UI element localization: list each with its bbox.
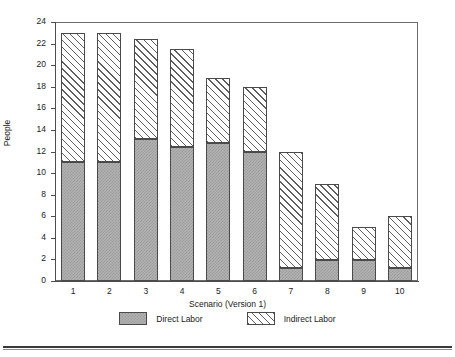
y-tick-label: 14 (37, 124, 46, 135)
y-axis-line (55, 22, 56, 282)
bar-segment-indirect-labor (61, 33, 85, 163)
bar-segment-direct-labor (388, 268, 412, 281)
y-tick-mark (51, 216, 55, 217)
bar-stack (388, 216, 412, 281)
bar-segment-direct-labor (134, 139, 158, 281)
y-tick-label: 4 (41, 232, 46, 243)
bar-segment-indirect-labor (352, 227, 376, 260)
y-tick-mark (51, 108, 55, 109)
y-tick-label: 0 (41, 275, 46, 286)
bar-segment-direct-labor (170, 147, 194, 281)
bar-stack (61, 33, 85, 281)
y-tick-mark (51, 65, 55, 66)
y-tick-label: 12 (37, 146, 46, 157)
y-tick-mark (51, 152, 55, 153)
bar-segment-direct-labor (61, 162, 85, 281)
x-tick-label: 3 (126, 286, 166, 297)
y-tick-mark (51, 44, 55, 45)
y-tick-label: 6 (41, 210, 46, 221)
footer-rule (3, 346, 452, 350)
legend-label: Indirect Labor (284, 314, 336, 324)
chart-legend: Direct LaborIndirect Labor (0, 312, 455, 325)
y-tick-mark (51, 195, 55, 196)
y-tick-label: 2 (41, 253, 46, 264)
y-tick-mark (51, 238, 55, 239)
x-tick-label: 9 (344, 286, 384, 297)
y-tick-label: 16 (37, 102, 46, 113)
x-tick-label: 5 (198, 286, 238, 297)
bar-segment-direct-labor (352, 260, 376, 281)
y-tick-label: 18 (37, 81, 46, 92)
y-tick-label: 24 (37, 16, 46, 27)
x-axis-line (55, 281, 419, 282)
bar-segment-direct-labor (206, 143, 230, 281)
bar-segment-direct-labor (243, 152, 267, 282)
bar-segment-indirect-labor (97, 33, 121, 163)
bar-stack (97, 33, 121, 281)
bar-stack (134, 39, 158, 281)
bar-segment-direct-labor (315, 260, 339, 281)
bar-segment-indirect-labor (388, 216, 412, 268)
x-tick-label: 1 (53, 286, 93, 297)
y-tick-mark (51, 173, 55, 174)
bar-stack (206, 78, 230, 281)
stipple-grey-swatch (119, 312, 147, 325)
y-tick-label: 8 (41, 189, 46, 200)
bar-segment-indirect-labor (170, 49, 194, 147)
y-tick-mark (51, 87, 55, 88)
bar-stack (170, 49, 194, 281)
bar-segment-indirect-labor (243, 87, 267, 152)
legend-item[interactable]: Indirect Labor (247, 312, 336, 325)
bar-segment-indirect-labor (279, 152, 303, 269)
bar-segment-indirect-labor (206, 78, 230, 143)
y-tick-label: 10 (37, 167, 46, 178)
bar-segment-direct-labor (97, 162, 121, 281)
x-tick-label: 10 (380, 286, 420, 297)
bar-stack (243, 87, 267, 281)
x-tick-label: 7 (271, 286, 311, 297)
x-tick-label: 4 (162, 286, 202, 297)
bar-segment-indirect-labor (134, 39, 158, 138)
bar-segment-direct-labor (279, 268, 303, 281)
y-tick-label: 22 (37, 38, 46, 49)
x-tick-label: 6 (235, 286, 275, 297)
bar-stack (352, 227, 376, 281)
x-tick-label: 2 (89, 286, 129, 297)
bar-stack (315, 184, 339, 281)
y-tick-mark (51, 281, 55, 282)
y-tick-mark (51, 259, 55, 260)
diagonal-hatch-swatch (247, 312, 275, 325)
x-tick-label: 8 (307, 286, 347, 297)
y-axis-title: People (2, 120, 12, 146)
bar-stack (279, 152, 303, 282)
legend-item[interactable]: Direct Labor (119, 312, 202, 325)
y-tick-label: 20 (37, 59, 46, 70)
legend-label: Direct Labor (156, 314, 202, 324)
bar-segment-indirect-labor (315, 184, 339, 261)
chart-figure: 024681012141618202224 12345678910 People… (0, 0, 455, 357)
y-tick-mark (51, 22, 55, 23)
y-tick-mark (51, 130, 55, 131)
x-axis-title: Scenario (Version 1) (0, 299, 455, 309)
